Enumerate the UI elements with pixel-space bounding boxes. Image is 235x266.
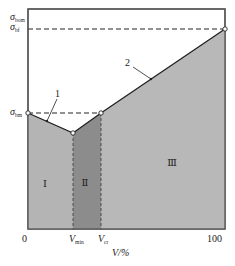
callout-1-dot bbox=[46, 120, 48, 122]
region-2-label: Ⅱ bbox=[82, 177, 89, 188]
point-sigma-bf bbox=[223, 27, 227, 31]
point-sigma-bm bbox=[26, 111, 30, 115]
x-axis-title: V/% bbox=[112, 247, 129, 258]
callout-2-label: 2 bbox=[125, 57, 130, 68]
x-tick-v-min: Vmin bbox=[69, 233, 84, 245]
x-tick-0: 0 bbox=[22, 233, 27, 244]
sigma-bm-label: σbm bbox=[10, 106, 23, 118]
region-1-label: Ⅰ bbox=[43, 178, 47, 189]
composite-strength-diagram: 1 2 Ⅰ Ⅱ Ⅲ σbom σbf σbm 0 Vmin Vcr 100 V/… bbox=[0, 0, 235, 266]
region-3-label: Ⅲ bbox=[167, 157, 177, 168]
callout-1-label: 1 bbox=[55, 88, 60, 99]
x-tick-100: 100 bbox=[207, 233, 222, 244]
callout-2-dot bbox=[150, 78, 152, 80]
x-tick-v-cr: Vcr bbox=[98, 233, 109, 245]
point-v-min bbox=[71, 131, 75, 135]
point-v-cr bbox=[99, 111, 103, 115]
